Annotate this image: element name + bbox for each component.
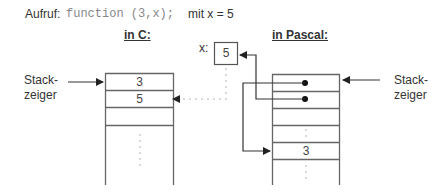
pascal-stack-cell: 3 (273, 143, 339, 159)
c-stack-cell: 3 (106, 74, 173, 90)
c-stack-continuation-dots (139, 134, 141, 166)
reference-arrow-to-3 (243, 83, 305, 151)
diagram-lines (0, 0, 447, 194)
c-stack-cell: 5 (106, 91, 173, 107)
copy-dotted-line (183, 68, 227, 100)
variable-value: 5 (214, 45, 238, 61)
